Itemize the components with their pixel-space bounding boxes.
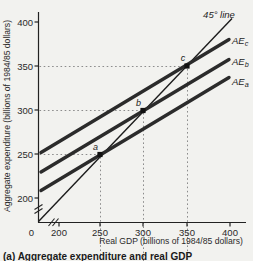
point-a-label: a bbox=[93, 142, 98, 152]
ae-a-label-main: AE bbox=[231, 76, 245, 87]
y-tick-label-200: 200 bbox=[17, 193, 33, 204]
ae-c-label-main: AE bbox=[231, 35, 245, 46]
ae-a-label-sub: a bbox=[245, 80, 249, 89]
y-tick-label-300: 300 bbox=[17, 105, 33, 116]
keynesian-cross-figure: a b c 45° line AEc AEb AEa 400 350 300 2… bbox=[0, 0, 253, 261]
point-b-label: b bbox=[136, 98, 141, 108]
ae-c-label-sub: c bbox=[245, 39, 249, 48]
y-tick-label-350: 350 bbox=[17, 61, 33, 72]
ae-curves bbox=[41, 40, 229, 191]
ae-b-line bbox=[41, 60, 229, 173]
axes bbox=[35, 12, 247, 227]
x-tick-label-200: 200 bbox=[51, 227, 67, 238]
ae-b-label-main: AE bbox=[231, 56, 245, 67]
point-c-label: c bbox=[181, 53, 186, 63]
y-tick-label-250: 250 bbox=[17, 149, 33, 160]
y-axis-title: Aggregate expenditure (billions of 1984/… bbox=[2, 20, 12, 212]
ae-c-label: AEc bbox=[231, 35, 249, 48]
origin-label: 0 bbox=[29, 227, 34, 238]
y-tick-label-400: 400 bbox=[17, 17, 33, 28]
45-degree-line-label: 45° line bbox=[203, 9, 235, 20]
ae-b-label: AEb bbox=[231, 56, 249, 69]
ae-a-label: AEa bbox=[231, 76, 249, 89]
point-b-marker bbox=[140, 108, 145, 113]
ae-b-label-sub: b bbox=[245, 60, 249, 69]
chart-canvas: a b c 45° line AEc AEb AEa 400 350 300 2… bbox=[0, 0, 253, 261]
45-degree-line bbox=[39, 19, 233, 222]
point-c-marker bbox=[184, 63, 189, 68]
x-axis-title: Real GDP (billions of 1984/85 dollars) bbox=[99, 236, 243, 246]
point-a-marker bbox=[97, 152, 102, 157]
figure-caption: (a) Aggregate expenditure and real GDP bbox=[3, 251, 249, 261]
